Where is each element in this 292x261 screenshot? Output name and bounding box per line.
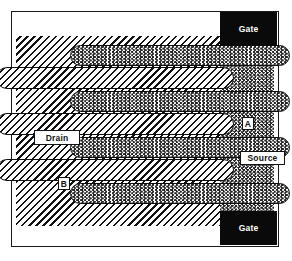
source-finger-1 [70,91,290,112]
drain-label-text: Drain [46,133,69,143]
source-label: Source [240,151,285,165]
callout-b: B [58,177,70,190]
callout-a: A [242,117,254,130]
source-label-text: Source [247,153,277,163]
diagram-frame: Gate Gate Drain Source A B [11,11,279,247]
gate-pad-top-label: Gate [239,24,259,34]
gate-pad-bottom-label: Gate [239,223,259,233]
gate-pad-bottom: Gate [220,211,277,245]
gate-pad-top: Gate [220,12,277,46]
figure-root: Gate Gate Drain Source A B [0,0,292,261]
drain-label: Drain [34,130,80,145]
source-finger-0 [70,45,290,66]
callout-a-text: A [245,119,251,129]
source-finger-3 [70,183,290,204]
callout-b-text: B [61,179,67,189]
drain-finger-2 [0,159,234,181]
drain-finger-0 [0,67,234,89]
